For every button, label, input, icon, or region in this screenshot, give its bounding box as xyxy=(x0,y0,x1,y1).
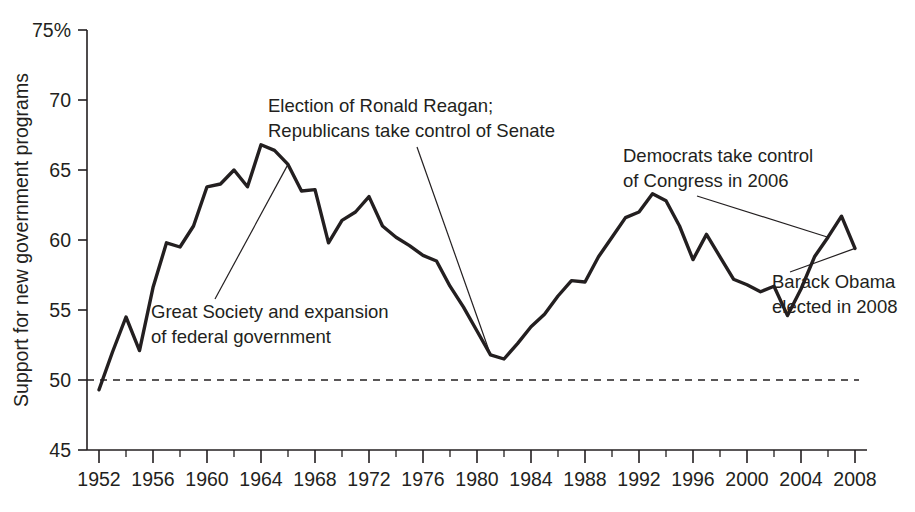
x-tick-label: 1984 xyxy=(509,468,553,490)
annotation-obama-elected: Barack Obama elected in 2008 xyxy=(772,271,898,317)
annotation-reagan-line-2: Republicans take control of Senate xyxy=(268,120,555,141)
annotation-obama-line-1: Barack Obama xyxy=(772,271,896,292)
y-tick-label: 60 xyxy=(49,229,71,251)
x-tick-label: 1968 xyxy=(293,468,336,490)
annotation-democrats-line-1: Democrats take control xyxy=(623,145,813,166)
y-tick-label: 45 xyxy=(49,439,71,461)
x-tick-label: 1960 xyxy=(185,468,229,490)
x-tick-label: 2008 xyxy=(833,468,876,490)
chart-page: 45505560657075% 195219561960196419681972… xyxy=(0,0,915,512)
annotation-democrats-congress: Democrats take control of Congress in 20… xyxy=(623,145,813,191)
y-axis-title: Support for new government programs xyxy=(10,73,32,407)
x-tick-label: 1964 xyxy=(239,468,283,490)
x-tick-label: 1976 xyxy=(401,468,444,490)
x-tick-label: 1956 xyxy=(131,468,174,490)
line-chart: 45505560657075% 195219561960196419681972… xyxy=(0,0,915,512)
x-tick-label: 1988 xyxy=(563,468,606,490)
y-axis-ticks: 45505560657075% xyxy=(32,19,87,461)
y-tick-label: 55 xyxy=(49,299,71,321)
annotation-great-society-line-2: of federal government xyxy=(151,326,331,347)
x-tick-label: 1972 xyxy=(347,468,390,490)
leader-line-reagan-election xyxy=(417,147,491,355)
x-tick-label: 1980 xyxy=(455,468,499,490)
x-tick-label: 2004 xyxy=(779,468,823,490)
y-tick-label: 50 xyxy=(49,369,71,391)
annotation-reagan-line-1: Election of Ronald Reagan; xyxy=(268,95,493,116)
annotation-reagan-election: Election of Ronald Reagan; Republicans t… xyxy=(268,95,555,141)
annotation-democrats-line-2: of Congress in 2006 xyxy=(623,170,789,191)
y-tick-label: 75% xyxy=(32,19,71,41)
x-tick-label: 2000 xyxy=(725,468,769,490)
y-tick-label: 70 xyxy=(49,89,71,111)
x-tick-label: 1952 xyxy=(77,468,120,490)
annotation-great-society: Great Society and expansion of federal g… xyxy=(151,301,389,347)
leader-line-great-society xyxy=(215,164,288,299)
x-tick-label: 1992 xyxy=(617,468,660,490)
y-tick-label: 65 xyxy=(49,159,71,181)
leader-line-democrats-congress xyxy=(697,196,828,237)
leader-line-obama-elected xyxy=(790,248,855,272)
x-tick-label: 1996 xyxy=(671,468,714,490)
x-axis-ticks: 1952195619601964196819721976198019841988… xyxy=(77,450,876,490)
annotation-great-society-line-1: Great Society and expansion xyxy=(151,301,389,322)
annotation-obama-line-2: elected in 2008 xyxy=(772,296,898,317)
